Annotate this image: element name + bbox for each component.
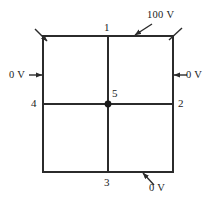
- node-5-dot: [105, 101, 112, 108]
- node-label-5: 5: [112, 88, 118, 99]
- boundary-label-bottom: 0 V: [149, 183, 165, 194]
- node-label-1: 1: [104, 22, 110, 33]
- boundary-label-left: 0 V: [9, 70, 25, 81]
- boundary-label-top: 100 V: [147, 10, 174, 21]
- node-label-3: 3: [104, 177, 110, 188]
- figure-canvas: 1 2 3 4 5 100 V 0 V 0 V 0 V: [0, 0, 220, 202]
- arrow-bc-top: [135, 24, 152, 35]
- boundary-label-right: 0 V: [186, 70, 202, 81]
- node-label-2: 2: [178, 98, 184, 109]
- corner-tick-top-right: [169, 28, 182, 40]
- node-label-4: 4: [31, 98, 37, 109]
